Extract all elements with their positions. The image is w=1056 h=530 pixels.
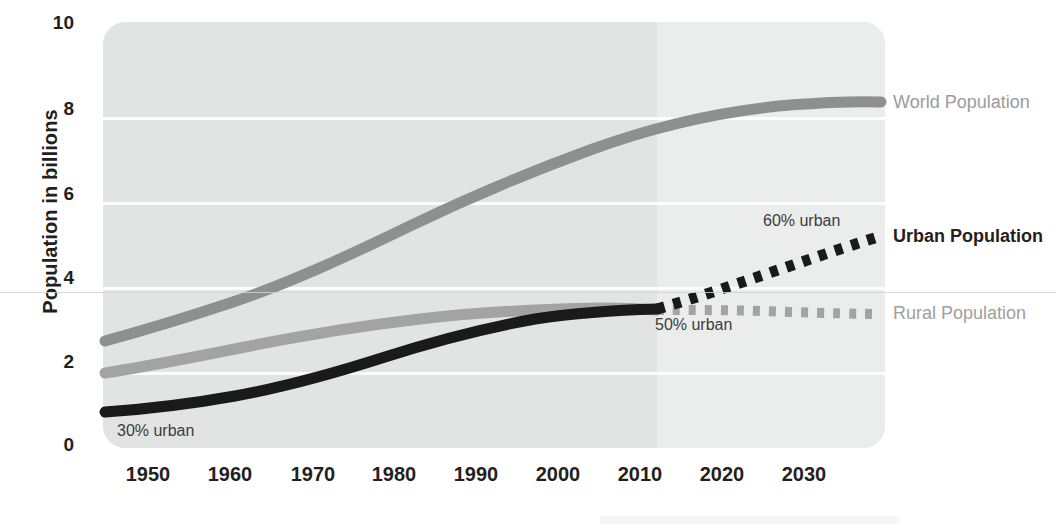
- x-tick-1970: 1970: [273, 463, 353, 486]
- y-tick-8: 8: [28, 98, 74, 120]
- legend-label-world-population: World Population: [893, 92, 1030, 113]
- y-axis-title: Population in billions: [39, 82, 62, 342]
- legend-label-urban-population: Urban Population: [893, 226, 1043, 247]
- population-chart: Population in billions 10 8 6 4 2 0 1950…: [0, 0, 1056, 530]
- x-tick-2020: 2020: [682, 463, 762, 486]
- x-tick-2010: 2010: [600, 463, 680, 486]
- x-tick-1950: 1950: [108, 463, 188, 486]
- x-tick-1980: 1980: [354, 463, 434, 486]
- plot-area: [103, 22, 885, 448]
- projection-shading: [657, 22, 885, 448]
- legend-label-rural-population: Rural Population: [893, 303, 1026, 324]
- x-tick-1960: 1960: [190, 463, 270, 486]
- x-tick-2000: 2000: [518, 463, 598, 486]
- scan-artifact-smudge: [600, 516, 900, 524]
- x-tick-2030: 2030: [764, 463, 844, 486]
- scan-artifact-rule: [0, 292, 1056, 293]
- gridline-2: [103, 372, 885, 375]
- annotation-60-percent-urban: 60% urban: [763, 212, 840, 230]
- y-tick-4: 4: [28, 267, 74, 289]
- gridline-4: [103, 287, 885, 290]
- y-tick-2: 2: [28, 351, 74, 373]
- gridline-8: [103, 117, 885, 120]
- y-tick-6: 6: [28, 183, 74, 205]
- x-tick-1990: 1990: [436, 463, 516, 486]
- annotation-30-percent-urban: 30% urban: [117, 422, 194, 440]
- annotation-50-percent-urban: 50% urban: [655, 316, 732, 334]
- y-tick-10: 10: [28, 12, 74, 34]
- y-tick-0: 0: [28, 434, 74, 456]
- gridline-6: [103, 202, 885, 205]
